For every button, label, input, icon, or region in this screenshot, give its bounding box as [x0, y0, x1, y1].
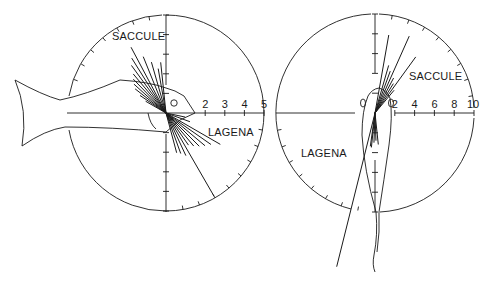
directional-response-figure: SACCULE LAGENA 2345 SACCULE LAGENA 24681…	[0, 0, 490, 285]
rim-tick	[289, 161, 292, 163]
rim-tick	[182, 206, 183, 210]
axis-tick-label: 2	[202, 98, 208, 110]
rim-tick	[358, 207, 359, 211]
axis-tick-label: 6	[431, 98, 437, 110]
rim-tick	[457, 64, 460, 66]
fish-top-outline	[362, 88, 391, 272]
rim-tick	[259, 129, 263, 130]
right-polar-plot	[276, 14, 474, 272]
rim-tick	[103, 38, 106, 41]
rim-tick	[226, 185, 229, 188]
rim-tick	[238, 173, 241, 176]
rim-tick	[391, 16, 392, 20]
rim-tick	[341, 202, 342, 206]
rim-tick	[311, 186, 314, 189]
axis-tick-label: 10	[467, 98, 479, 110]
response-vector	[133, 74, 166, 113]
rim-tick	[423, 27, 425, 30]
rim-tick	[198, 201, 199, 205]
axis-tick-label: 4	[412, 98, 418, 110]
axis-tick-label: 2	[392, 98, 398, 110]
left-polar-plot	[15, 15, 264, 212]
right-polar-circle-left	[276, 14, 371, 209]
rim-tick	[149, 16, 150, 20]
axis-tick-label: 3	[222, 98, 228, 110]
rim-tick	[464, 79, 468, 80]
left-saccule-label: SACCULE	[112, 30, 165, 42]
response-vector	[166, 113, 214, 196]
left-axis-tick-labels: 2345	[202, 98, 267, 110]
rim-tick	[407, 20, 408, 24]
response-vector	[337, 113, 375, 267]
axis-tick-label: 8	[451, 98, 457, 110]
response-vector	[131, 65, 166, 113]
right-axis-tick-labels: 246810	[392, 98, 479, 110]
right-lagena-label: LAGENA	[301, 147, 347, 159]
rim-tick	[448, 49, 451, 52]
fish-gill-arc	[148, 113, 156, 129]
rim-tick	[282, 145, 286, 146]
rim-tick	[81, 64, 84, 66]
fish-eye	[171, 100, 177, 106]
rim-tick	[91, 50, 94, 53]
rim-tick	[74, 79, 78, 80]
rim-tick	[247, 160, 250, 162]
fish-top-left-eye	[361, 99, 366, 107]
right-polar-circle-right	[379, 14, 474, 108]
axis-tick-label: 5	[261, 98, 267, 110]
rim-tick	[469, 96, 473, 97]
left-lagena-label: LAGENA	[208, 126, 254, 138]
left-response-vectors	[131, 47, 220, 196]
rim-tick	[278, 129, 282, 130]
right-saccule-label: SACCULE	[409, 70, 462, 82]
rim-tick	[132, 21, 133, 25]
rim-tick	[436, 37, 439, 40]
axis-tick-label: 4	[241, 98, 247, 110]
rim-tick	[326, 195, 328, 198]
right-polar-circle-lower-right	[380, 118, 474, 212]
rim-tick	[299, 174, 302, 177]
rim-tick	[254, 145, 258, 146]
